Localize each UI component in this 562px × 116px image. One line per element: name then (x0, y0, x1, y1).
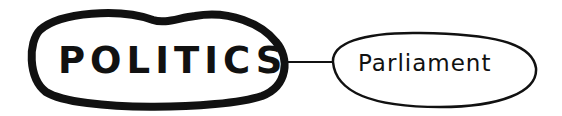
child-node-label: Parliament (358, 46, 528, 80)
central-node-label: POLITICS (58, 36, 258, 86)
